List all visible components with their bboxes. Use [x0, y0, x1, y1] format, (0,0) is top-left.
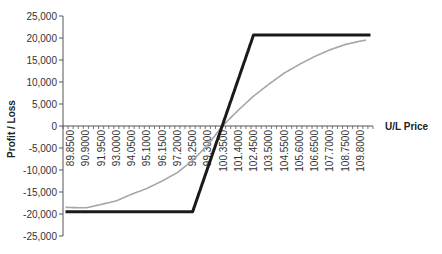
y-tick-label: 15,000 [26, 55, 57, 66]
x-tick-label: 104.5500 [279, 130, 290, 172]
x-tick-label: 97.2000 [172, 130, 183, 167]
y-axis-title: Profit / Loss [6, 100, 17, 158]
x-tick-label: 105.6000 [294, 130, 305, 172]
x-tick-label: 90.9000 [80, 130, 91, 167]
y-tick-label: 20,000 [26, 33, 57, 44]
y-tick-label: -10,000 [23, 165, 57, 176]
x-tick-label: 91.9500 [96, 130, 107, 167]
x-tick-label: 95.1000 [141, 130, 152, 167]
y-tick-label: 0 [51, 121, 57, 132]
x-tick-label: 107.7000 [324, 130, 335, 172]
y-tick-label: -15,000 [23, 187, 57, 198]
series-line-payoff-at-expiry [66, 35, 371, 212]
x-tick-label: 102.4500 [248, 130, 259, 172]
y-tick-label: 25,000 [26, 11, 57, 22]
series [66, 35, 371, 212]
x-tick-label: 94.0500 [126, 130, 137, 167]
x-tick-label: 108.7500 [340, 130, 351, 172]
x-tick-label: 89.8500 [65, 130, 76, 167]
y-tick-label: 10,000 [26, 77, 57, 88]
y-tick-label: -25,000 [23, 231, 57, 242]
series-line-current-value [66, 40, 367, 208]
x-tick-label: 101.4000 [233, 130, 244, 172]
x-tick-label: 103.5000 [263, 130, 274, 172]
y-axis: 25,00020,00015,00010,0005,0000-5,000-10,… [23, 11, 63, 242]
y-tick-label: -5,000 [29, 143, 58, 154]
x-tick-label: 106.6500 [309, 130, 320, 172]
y-tick-label: 5,000 [32, 99, 57, 110]
y-tick-label: -20,000 [23, 209, 57, 220]
x-tick-label: 93.0000 [111, 130, 122, 167]
x-tick-label: 109.8000 [355, 130, 366, 172]
x-axis-title: U/L Price [385, 121, 429, 132]
chart: 25,00020,00015,00010,0005,0000-5,000-10,… [0, 0, 442, 254]
x-tick-label: 96.1500 [157, 130, 168, 167]
